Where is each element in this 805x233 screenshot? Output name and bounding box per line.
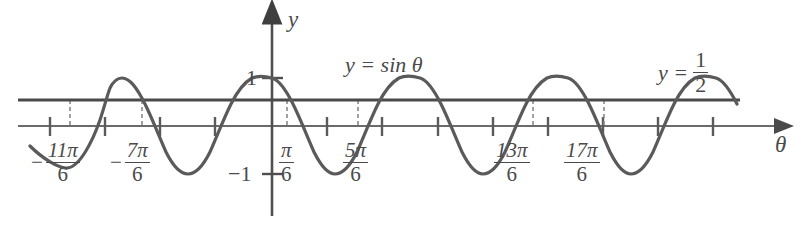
x-tick-denominator-17pi-6: 6 <box>575 163 590 185</box>
x-tick-sign-neg-11pi-6: − <box>31 152 43 173</box>
x-tick-denominator-5pi-6: 6 <box>348 163 363 185</box>
x-tick-label-5pi-6: 5π 6 <box>343 140 368 185</box>
plot-canvas <box>0 0 805 233</box>
x-axis-label: θ <box>775 133 786 156</box>
y-tick-label-1: 1 <box>246 67 257 89</box>
half-line-numerator: 1 <box>693 49 708 73</box>
x-tick-label-neg-7pi-6: − 7π 6 <box>110 140 150 185</box>
sine-graph-figure: y θ 1 −1 − 11π 6 − 7π 6 π 6 <box>0 0 805 233</box>
x-tick-numerator-5pi-6: 5π <box>343 140 368 163</box>
x-tick-numerator-17pi-6: 17π <box>564 140 600 163</box>
half-line-fraction: 1 2 <box>693 49 708 96</box>
x-tick-numerator-neg-7pi-6: 7π <box>125 140 150 163</box>
x-tick-numerator-pi-6: π <box>279 140 294 163</box>
x-tick-fraction-pi-6: π 6 <box>279 140 294 185</box>
x-tick-denominator-neg-7pi-6: 6 <box>130 163 145 185</box>
x-tick-numerator-neg-11pi-6: 11π <box>46 140 80 163</box>
x-tick-label-pi-6: π 6 <box>279 140 294 185</box>
y-axis-label: y <box>288 8 298 31</box>
x-tick-label-17pi-6: 17π 6 <box>564 140 600 185</box>
x-tick-numerator-13pi-6: 13π <box>494 140 530 163</box>
y-tick-label-neg1: −1 <box>228 163 251 185</box>
x-tick-fraction-neg-7pi-6: 7π 6 <box>125 140 150 185</box>
half-line-equation-lhs: y = <box>658 62 688 84</box>
x-tick-fraction-17pi-6: 17π 6 <box>564 140 600 185</box>
x-tick-fraction-neg-11pi-6: 11π 6 <box>46 140 80 185</box>
x-tick-denominator-13pi-6: 6 <box>505 163 520 185</box>
x-tick-sign-neg-7pi-6: − <box>110 152 122 173</box>
x-tick-label-neg-11pi-6: − 11π 6 <box>31 140 80 185</box>
sine-equation-label: y = sin θ <box>345 54 423 76</box>
x-tick-fraction-13pi-6: 13π 6 <box>494 140 530 185</box>
x-tick-denominator-pi-6: 6 <box>279 163 294 185</box>
x-tick-fraction-5pi-6: 5π 6 <box>343 140 368 185</box>
half-line-denominator: 2 <box>693 73 708 96</box>
x-tick-denominator-neg-11pi-6: 6 <box>56 163 71 185</box>
half-line-equation-label: y = 1 2 <box>658 49 708 96</box>
x-tick-label-13pi-6: 13π 6 <box>494 140 530 185</box>
